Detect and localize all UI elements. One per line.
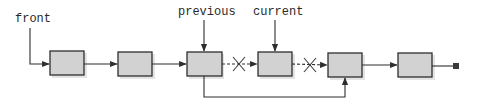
previous-label: previous	[178, 5, 236, 19]
list-node-current	[258, 52, 292, 76]
front-pointer-arrow	[30, 28, 49, 64]
front-label: front	[15, 12, 51, 26]
list-node-2	[118, 52, 152, 76]
null-terminator-icon	[453, 63, 459, 69]
list-node-5	[328, 53, 362, 77]
list-node-previous	[187, 52, 222, 76]
list-node-6	[398, 53, 432, 77]
list-node-1	[50, 51, 84, 75]
current-label: current	[253, 5, 303, 19]
bypass-link-arrow	[204, 76, 345, 97]
linked-list-diagram: front previous current	[0, 0, 477, 107]
